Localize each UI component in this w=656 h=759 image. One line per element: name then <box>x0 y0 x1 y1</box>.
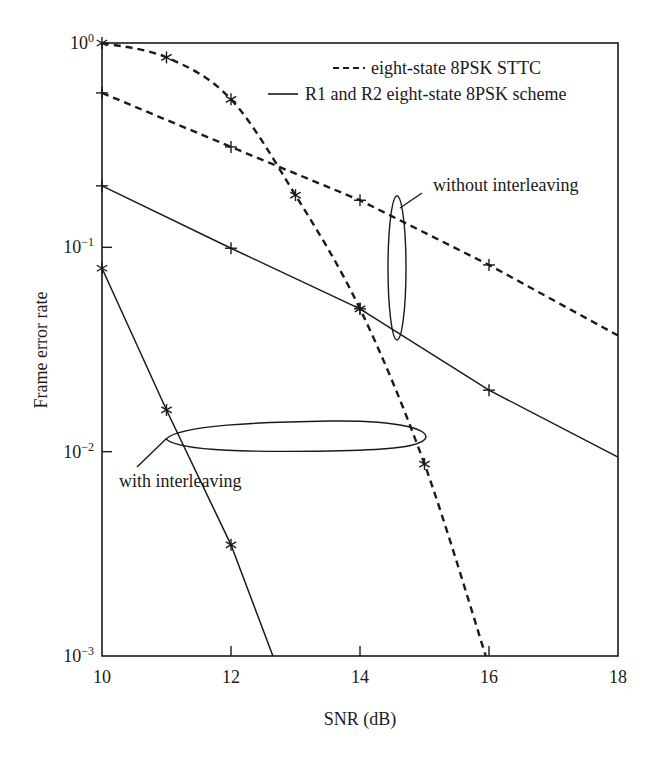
frame-error-rate-chart: 101214161810010−110−210−3 without interl… <box>0 0 656 759</box>
x-tick-label: 16 <box>480 667 498 687</box>
series-line <box>102 268 273 656</box>
plus-marker <box>354 194 366 206</box>
plus-marker <box>483 384 495 396</box>
star-marker <box>161 404 171 416</box>
legend: eight-state 8PSK STTC R1 and R2 eight-st… <box>268 58 566 104</box>
y-tick-label: 10−3 <box>63 644 94 666</box>
y-tick-label: 10−1 <box>63 235 94 257</box>
axis-ticks: 101214161810010−110−210−3 <box>63 31 627 687</box>
annotation-with-interleaving: with interleaving <box>119 471 241 491</box>
without-interleaving-ellipse <box>388 196 406 340</box>
series-layer <box>96 37 618 656</box>
x-tick-label: 18 <box>609 667 627 687</box>
y-axis-label: Frame error rate <box>31 292 51 409</box>
star-marker <box>161 51 171 63</box>
plus-marker <box>354 303 366 315</box>
x-tick-label: 14 <box>351 667 369 687</box>
without-interleaving-leader <box>400 193 422 208</box>
with-interleaving-ellipse <box>166 421 426 451</box>
y-tick-label: 10−2 <box>63 440 94 462</box>
legend-label-sttc: eight-state 8PSK STTC <box>371 58 541 78</box>
x-tick-label: 10 <box>93 667 111 687</box>
series-line <box>102 43 486 656</box>
star-marker <box>226 539 236 551</box>
series-line <box>102 186 618 457</box>
with-interleaving-leader <box>137 439 166 467</box>
plus-marker <box>225 242 237 254</box>
star-marker <box>419 458 429 470</box>
plus-marker <box>483 259 495 271</box>
annotations: without interleavingwith interleaving <box>119 175 578 491</box>
plus-marker <box>225 141 237 153</box>
x-axis-label: SNR (dB) <box>324 709 397 730</box>
x-tick-label: 12 <box>222 667 240 687</box>
legend-label-scheme: R1 and R2 eight-state 8PSK scheme <box>305 84 566 104</box>
plot-frame <box>102 43 618 656</box>
y-tick-label: 100 <box>70 31 94 53</box>
annotation-without-interleaving: without interleaving <box>433 175 578 195</box>
series-line <box>102 93 618 336</box>
